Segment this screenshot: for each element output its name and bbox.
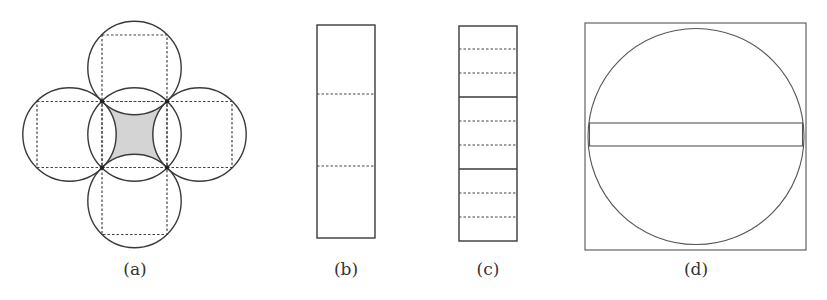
panel-b-rect [317, 25, 375, 238]
panel-c-label: (c) [477, 259, 500, 279]
panel-c-rect [459, 26, 517, 241]
panel-b-label: (b) [334, 259, 358, 279]
panel-d-square [585, 23, 806, 250]
panel-d-band [590, 123, 803, 146]
panel-d-label: (d) [684, 259, 708, 279]
panel-b: (b) [317, 25, 375, 279]
panel-d-circle [588, 29, 804, 245]
panel-a: (a) [23, 21, 246, 279]
panel-d: (d) [585, 23, 806, 279]
panel-a-label: (a) [123, 259, 146, 279]
panel-c: (c) [459, 26, 517, 279]
diagram-figure: (a) (b) (c) (d) [0, 0, 827, 300]
shaded-region [102, 102, 167, 168]
